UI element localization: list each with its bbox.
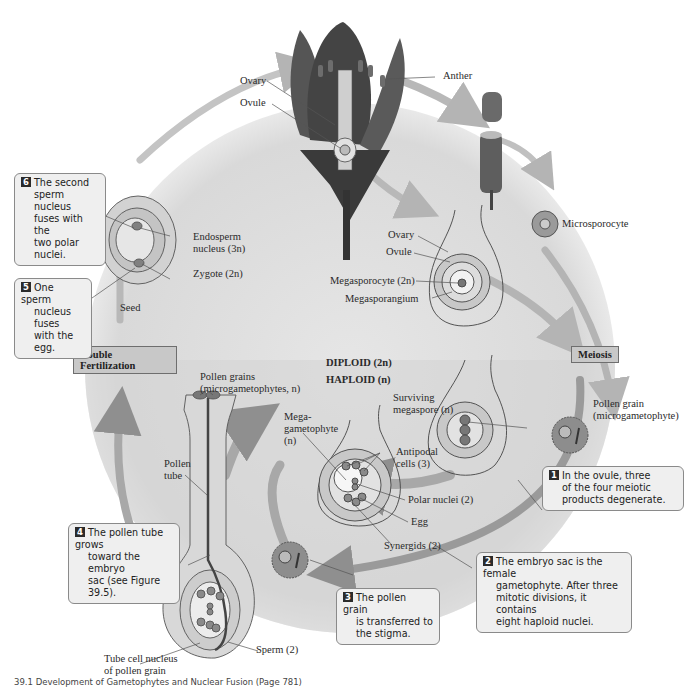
label-megasporangium: Megasporangium bbox=[345, 293, 419, 305]
step-badge-3: 3 bbox=[343, 592, 353, 602]
label-ovule: Ovule bbox=[386, 246, 412, 258]
label-polar-nuclei: Polar nuclei (2) bbox=[408, 494, 473, 506]
label-megagametophyte-3: (n) bbox=[284, 435, 296, 447]
pollen-grain-right bbox=[552, 417, 588, 453]
callout-4-line-2: toward the embryo bbox=[75, 551, 173, 575]
label-ovary-flower: Ovary bbox=[240, 75, 266, 87]
callout-step-2: 2The embryo sac is the female gametophyt… bbox=[476, 552, 632, 633]
label-pollen-grain-2: (microgametophyte) bbox=[593, 410, 679, 422]
callout-3-line-2: is transferred to bbox=[343, 616, 433, 628]
label-tube-cell-1: Tube cell nucleus bbox=[104, 653, 178, 665]
label-tube-cell-2: of pollen grain bbox=[104, 665, 166, 677]
callout-step-6: 6The second sperm nucleus fuses with the… bbox=[14, 173, 106, 266]
meiosis-box: Meiosis bbox=[571, 346, 619, 363]
label-ovary-ovule: Ovary bbox=[388, 229, 414, 241]
label-sperm: Sperm (2) bbox=[256, 644, 298, 656]
callout-5-line-2: nucleus fuses bbox=[21, 306, 85, 330]
callout-step-1: 1In the ovule, three of the four meiotic… bbox=[542, 466, 684, 511]
label-pollen-grain-1: Pollen grain bbox=[593, 398, 644, 410]
callout-2-line-1: The embryo sac is the female bbox=[483, 556, 602, 579]
label-egg: Egg bbox=[411, 516, 428, 528]
callout-step-4: 4The pollen tube grows toward the embryo… bbox=[68, 523, 180, 604]
label-antipodal-2: cells (3) bbox=[396, 458, 430, 470]
callout-1-line-2: of the four meiotic bbox=[549, 482, 677, 494]
callout-4-line-1: The pollen tube grows bbox=[75, 527, 163, 550]
diploid-label: DIPLOID (2n) bbox=[326, 357, 392, 369]
step-badge-5: 5 bbox=[21, 282, 31, 292]
step-badge-4: 4 bbox=[75, 527, 85, 537]
label-surviving-2: megaspore (n) bbox=[393, 404, 453, 416]
label-surviving-1: Surviving bbox=[393, 392, 434, 404]
figure-caption: 39.1 Development of Gametophytes and Nuc… bbox=[14, 677, 302, 687]
label-microsporocyte: Microsporocyte bbox=[562, 218, 628, 230]
callout-1-line-3: products degenerate. bbox=[549, 494, 677, 506]
callout-6-line-4: two polar nuclei. bbox=[21, 237, 99, 261]
label-pollen-grains-1: Pollen grains bbox=[200, 371, 255, 383]
callout-2-line-4: eight haploid nuclei. bbox=[483, 616, 625, 628]
step-badge-1: 1 bbox=[549, 470, 559, 480]
callout-6-line-3: fuses with the bbox=[21, 213, 99, 237]
label-synergids: Synergids (2) bbox=[384, 540, 441, 552]
label-megasporocyte: Megasporocyte (2n) bbox=[330, 275, 415, 287]
callout-6-line-1: The second bbox=[34, 177, 89, 188]
step-badge-6: 6 bbox=[21, 177, 31, 187]
anther-illustration bbox=[480, 92, 502, 210]
life-cycle-diagram: DIPLOID (2n) HAPLOID (n) Double Fertiliz… bbox=[0, 0, 695, 693]
label-megagametophyte-1: Mega- bbox=[284, 411, 311, 423]
callout-6-line-2: sperm nucleus bbox=[21, 189, 99, 213]
pollen-grain-bottom bbox=[272, 542, 308, 578]
label-pollen-grains-2: (microgametophytes, n) bbox=[200, 383, 300, 395]
callout-5-line-3: with the egg. bbox=[21, 330, 85, 354]
label-endosperm-1: Endosperm bbox=[193, 231, 241, 243]
label-pollen-tube-1: Pollen bbox=[164, 458, 191, 470]
haploid-label: HAPLOID (n) bbox=[326, 374, 390, 386]
step-badge-2: 2 bbox=[483, 556, 493, 566]
seed-illustration bbox=[100, 196, 176, 284]
label-endosperm-2: nucleus (3n) bbox=[193, 243, 245, 255]
label-seed: Seed bbox=[120, 302, 140, 314]
label-ovule-flower: Ovule bbox=[240, 97, 266, 109]
callout-4-line-3: sac (see Figure 39.5). bbox=[75, 575, 173, 599]
callout-2-line-3: mitotic divisions, it contains bbox=[483, 592, 625, 616]
microsporocyte-cell bbox=[532, 211, 558, 237]
callout-step-5: 5One sperm nucleus fuses with the egg. bbox=[14, 278, 92, 359]
label-zygote: Zygote (2n) bbox=[193, 268, 243, 280]
callout-2-line-2: gametophyte. After three bbox=[483, 580, 625, 592]
label-megagametophyte-2: gametophyte bbox=[284, 423, 338, 435]
label-pollen-tube-2: tube bbox=[164, 470, 182, 482]
callout-1-line-1: In the ovule, three bbox=[562, 470, 650, 481]
callout-step-3: 3The pollen grain is transferred to the … bbox=[336, 588, 440, 645]
label-anther: Anther bbox=[443, 70, 472, 82]
callout-3-line-3: the stigma. bbox=[343, 628, 433, 640]
label-antipodal-1: Antipodal bbox=[396, 446, 438, 458]
